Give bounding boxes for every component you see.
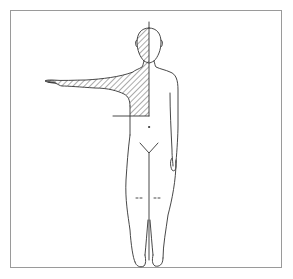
body-diagram — [0, 0, 293, 279]
